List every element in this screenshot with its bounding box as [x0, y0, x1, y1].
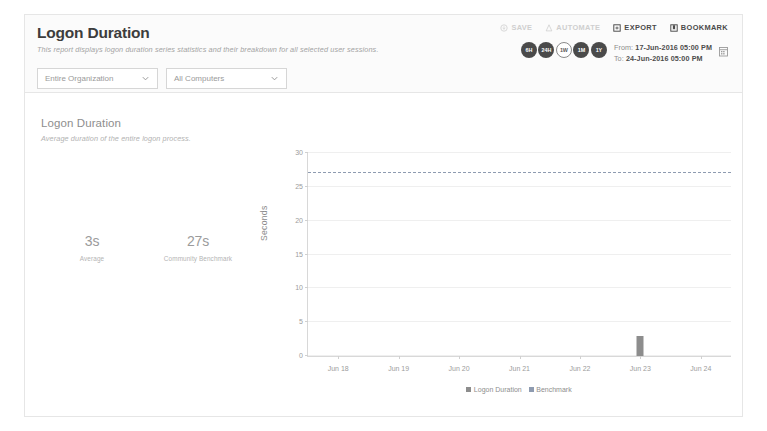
kpi-benchmark-value: 27s	[161, 233, 235, 249]
date-range-to-value: 24-Jun-2016 05:00 PM	[626, 54, 703, 63]
legend-item[interactable]: Logon Duration	[466, 386, 521, 393]
y-tick-label: 10	[295, 284, 303, 291]
chevron-down-icon	[270, 74, 279, 83]
y-tick-mark	[305, 254, 308, 255]
report-page: Logon Duration This report displays logo…	[0, 0, 767, 431]
y-tick-mark	[305, 355, 308, 356]
time-pill-24h[interactable]: 24H	[538, 42, 554, 58]
legend-swatch	[529, 387, 534, 392]
kpi-benchmark: 27s Community Benchmark	[161, 233, 235, 264]
chart-subtitle: Average duration of the entire logon pro…	[41, 134, 191, 143]
chart-bar[interactable]	[637, 336, 644, 356]
filter-bar: Entire Organization All Computers	[37, 68, 287, 89]
y-tick-label: 30	[295, 149, 303, 156]
time-pill-6h[interactable]: 6H	[521, 42, 537, 58]
automate-icon	[545, 24, 553, 32]
automate-button-label: AUTOMATE	[556, 23, 600, 32]
x-tick-label: Jun 23	[630, 365, 651, 372]
chevron-down-icon	[141, 74, 150, 83]
time-pill-1m[interactable]: 1M	[573, 42, 589, 58]
report-header: Logon Duration This report displays logo…	[24, 14, 743, 92]
page-subtitle: This report displays logon duration seri…	[37, 45, 379, 54]
date-range-to-label: To:	[614, 54, 624, 63]
y-tick-mark	[305, 287, 308, 288]
y-tick-label: 25	[295, 182, 303, 189]
x-tick-mark	[399, 356, 400, 359]
y-gridline: 15	[308, 254, 731, 255]
date-range-from-value: 17-Jun-2016 05:00 PM	[635, 43, 712, 52]
computers-dropdown-value: All Computers	[174, 74, 270, 83]
chart-plot-area: Seconds 051015202530Jun 18Jun 19Jun 20Ju…	[261, 153, 731, 393]
kpi-benchmark-label: Community Benchmark	[161, 255, 235, 264]
kpi-average-value: 3s	[55, 233, 129, 249]
date-range-from: From: 17-Jun-2016 05:00 PM	[614, 43, 712, 52]
y-tick-label: 20	[295, 216, 303, 223]
bookmark-button[interactable]: BOOKMARK	[670, 23, 728, 32]
time-pill-1y[interactable]: 1Y	[591, 42, 607, 58]
export-button-label: EXPORT	[624, 23, 657, 32]
chart-panel: Logon Duration Average duration of the e…	[24, 92, 743, 417]
organization-dropdown-value: Entire Organization	[45, 74, 141, 83]
page-title: Logon Duration	[37, 24, 150, 42]
y-gridline: 25	[308, 186, 731, 187]
legend-swatch	[466, 387, 471, 392]
calendar-icon[interactable]	[719, 46, 728, 57]
x-tick-mark	[459, 356, 460, 359]
bookmark-icon	[670, 24, 678, 32]
computers-dropdown[interactable]: All Computers	[166, 68, 287, 89]
y-tick-mark	[305, 321, 308, 322]
y-tick-label: 5	[299, 318, 303, 325]
automate-button[interactable]: AUTOMATE	[545, 23, 600, 32]
y-axis-title: Seconds	[259, 205, 269, 241]
y-tick-label: 15	[295, 250, 303, 257]
date-range[interactable]: From: 17-Jun-2016 05:00 PM To: 24-Jun-20…	[614, 42, 712, 63]
date-range-to: To: 24-Jun-2016 05:00 PM	[614, 54, 712, 63]
time-pill-1w[interactable]: 1W	[556, 42, 572, 58]
x-tick-label: Jun 21	[509, 365, 530, 372]
x-tick-label: Jun 18	[328, 365, 349, 372]
x-tick-label: Jun 22	[569, 365, 590, 372]
x-tick-label: Jun 19	[388, 365, 409, 372]
y-gridline: 20	[308, 220, 731, 221]
kpi-group: 3s Average 27s Community Benchmark	[55, 233, 255, 264]
x-tick-label: Jun 24	[690, 365, 711, 372]
kpi-average: 3s Average	[55, 233, 129, 264]
chart-title: Logon Duration	[41, 117, 121, 129]
x-tick-mark	[520, 356, 521, 359]
time-range-pills: 6H 24H 1W 1M 1Y	[521, 42, 607, 58]
y-tick-mark	[305, 186, 308, 187]
y-gridline: 30	[308, 152, 731, 153]
x-tick-mark	[338, 356, 339, 359]
date-range-from-label: From:	[614, 43, 633, 52]
y-gridline: 10	[308, 287, 731, 288]
y-tick-label: 0	[299, 352, 303, 359]
export-button[interactable]: EXPORT	[613, 23, 657, 32]
legend-label: Logon Duration	[474, 386, 522, 393]
export-icon	[613, 24, 621, 32]
x-tick-mark	[580, 356, 581, 359]
legend-label: Benchmark	[536, 386, 571, 393]
bookmark-button-label: BOOKMARK	[681, 23, 728, 32]
benchmark-line	[308, 172, 731, 173]
y-tick-mark	[305, 220, 308, 221]
save-button-label: SAVE	[511, 23, 532, 32]
kpi-average-label: Average	[55, 255, 129, 264]
save-icon	[500, 24, 508, 32]
x-tick-label: Jun 20	[449, 365, 470, 372]
legend-item[interactable]: Benchmark	[529, 386, 572, 393]
y-gridline: 5	[308, 321, 731, 322]
save-button[interactable]: SAVE	[500, 23, 532, 32]
y-tick-mark	[305, 152, 308, 153]
header-actions: SAVE AUTOMATE EXPORT BOOKMARK	[500, 23, 728, 32]
chart-legend: Logon DurationBenchmark	[307, 386, 731, 393]
x-tick-mark	[701, 356, 702, 359]
time-range-bar: 6H 24H 1W 1M 1Y From: 17-Jun-2016 05:00 …	[521, 42, 728, 63]
x-tick-mark	[640, 356, 641, 359]
plot-canvas: 051015202530Jun 18Jun 19Jun 20Jun 21Jun …	[307, 153, 731, 357]
organization-dropdown[interactable]: Entire Organization	[37, 68, 158, 89]
